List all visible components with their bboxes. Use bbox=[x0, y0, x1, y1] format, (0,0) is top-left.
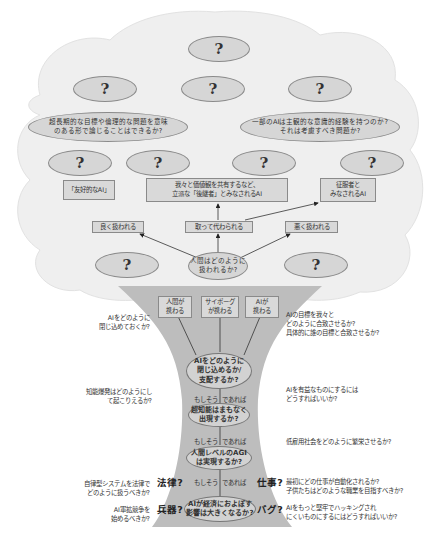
box-text-line: サイボーグ bbox=[205, 298, 235, 307]
ellipse-text-line: 超知能はまもなく bbox=[191, 406, 247, 416]
question-mark: ? bbox=[260, 154, 269, 172]
label-line: にくいものにするにはどうすればいいか? bbox=[286, 513, 397, 522]
condition-label-left: もしそう bbox=[188, 436, 218, 446]
box-text-line: 携わる bbox=[253, 307, 271, 316]
label-line: どうすればいいか? bbox=[286, 395, 337, 404]
left-question-autonomous-law: 自律型システムを法律で どのように扱うべきか? bbox=[40, 478, 150, 498]
label-line: AIをどのように bbox=[108, 314, 150, 323]
question-ellipse-long-term-ethics: 超長期的な目標や倫理的な問題を意味 のある形で論じることはできるか? bbox=[28, 112, 188, 142]
ellipse-text-line: 超長期的な目標や倫理的な問題を意味 bbox=[49, 118, 168, 127]
question-ellipse-row6-left: ? bbox=[95, 252, 159, 278]
ellipse-text-line: 人間はどのように bbox=[190, 257, 246, 266]
left-question-intelligence-explosion: 知能爆発はどのようにし て起こりえるか? bbox=[40, 386, 152, 406]
ellipse-text-line: AIをどのように bbox=[194, 357, 244, 367]
question-mark: ? bbox=[368, 154, 377, 172]
question-ellipse-row2-mid: ? bbox=[181, 76, 245, 102]
box-text-line: 人間が bbox=[166, 298, 184, 307]
box-text: 悪く扱われる bbox=[294, 223, 330, 232]
question-ellipse-row4-3: ? bbox=[232, 150, 296, 176]
box-text: 「友好的なAI」 bbox=[68, 186, 110, 195]
question-ellipse-consciousness: 一部のAIは主観的な意識的経験を持つのか? それは考慮すべき問題か? bbox=[240, 112, 400, 142]
question-ellipse-ai-control: AIをどのように 閉じ込めるか/ 支配するか? bbox=[186, 353, 252, 389]
left-question-arms-race: AI軍拡競争を 始めるべきか? bbox=[40, 504, 150, 524]
label-line: 最初にどの仕事が自動化されるか? bbox=[286, 478, 379, 487]
box-text-line: が携わる bbox=[208, 307, 232, 316]
question-ellipse-row6-right: ? bbox=[284, 252, 348, 278]
label-line: AIの目標を我々と bbox=[286, 311, 334, 320]
question-mark: ? bbox=[312, 256, 321, 274]
question-ellipse-economic-impact: AIが経済におよぼす 影響は大きくなるか? bbox=[184, 496, 256, 522]
right-question-automation-jobs: 最初にどの仕事が自動化されるか? 子供たちはどのような職業を目指すべきか? bbox=[286, 478, 436, 498]
ellipse-text-line: は実現するか? bbox=[196, 458, 242, 468]
ellipse-text-line: 出現するか? bbox=[199, 415, 238, 425]
keyword-jobs: 仕事? bbox=[256, 476, 284, 488]
actor-box-cyborg: サイボーグ が携わる bbox=[201, 296, 239, 318]
ellipse-text-line: 人間レベルのAGI bbox=[191, 449, 247, 459]
right-question-low-employment: 低雇用社会をどのように繁栄させるか? bbox=[286, 436, 436, 448]
ellipse-text-line: のある形で論じることはできるか? bbox=[54, 127, 163, 136]
condition-label-right: であれば bbox=[222, 436, 252, 446]
outcome-box-friendly-ai: 「友好的なAI」 bbox=[63, 180, 115, 200]
condition-label-left: もしそう bbox=[188, 477, 218, 487]
box-text: 良く扱われる bbox=[100, 223, 136, 232]
ellipse-text-line: 閉じ込めるか/ bbox=[197, 366, 242, 376]
right-question-goal-alignment: AIの目標を我々と どのように合致させるか? 具体的に誰の目標と合致させるか? bbox=[286, 311, 436, 341]
right-question-beneficial-ai: AIを有益なものにするには どうすればいいか? bbox=[286, 386, 436, 406]
condition-label-right: であれば bbox=[222, 477, 252, 487]
box-text-line: 我々と価値観を共有するなど、 bbox=[175, 181, 259, 190]
question-mark: ? bbox=[76, 154, 85, 172]
ellipse-text-line: それは考慮すべき問題か? bbox=[280, 127, 361, 136]
question-ellipse-row2-right: ? bbox=[288, 76, 352, 102]
question-mark: ? bbox=[316, 80, 325, 98]
label-line: 子供たちはどのような職業を目指すべきか? bbox=[286, 487, 403, 496]
outcome-box-successor-ai: 我々と価値観を共有するなど、 立派な「後継者」とみなされるAI bbox=[146, 178, 288, 202]
ellipse-text-line: 一部のAIは主観的な意識的経験を持つのか? bbox=[252, 118, 388, 127]
treatment-box-treated-badly: 悪く扱われる bbox=[285, 221, 338, 233]
ellipse-text-line: AIが経済におよぼす bbox=[188, 500, 252, 510]
question-mark: ? bbox=[209, 80, 218, 98]
label-line: AI軍拡競争を bbox=[114, 506, 150, 515]
keyword-weapons: 兵器? bbox=[156, 503, 184, 515]
question-ellipse-row4-2: ? bbox=[126, 150, 190, 176]
question-ellipse-agi: 人間レベルのAGI は実現するか? bbox=[186, 446, 252, 470]
question-mark: ? bbox=[154, 154, 163, 172]
question-ellipse-how-humans-treated: 人間はどのように 扱われるか? bbox=[188, 252, 248, 280]
actor-box-ai: AIが 携わる bbox=[245, 296, 279, 318]
box-text-line: 携わる bbox=[166, 307, 184, 316]
keyword-law: 法律? bbox=[156, 476, 184, 488]
box-text-line: AIが bbox=[256, 298, 268, 307]
box-text: 取って代わられる bbox=[195, 223, 243, 232]
treatment-box-replaced: 取って代わられる bbox=[185, 221, 253, 233]
label-line: AIをもっと堅牢でハッキングされ bbox=[286, 504, 376, 513]
box-text-line: みなされるAI bbox=[330, 190, 366, 199]
label-line: 低雇用社会をどのように繁栄させるか? bbox=[286, 438, 391, 447]
question-mark: ? bbox=[215, 40, 224, 58]
box-text-line: 征服者と bbox=[336, 181, 360, 190]
question-ellipse-row4-1: ? bbox=[48, 150, 112, 176]
treatment-box-treated-well: 良く扱われる bbox=[92, 221, 144, 233]
label-line: 知能爆発はどのようにし bbox=[86, 388, 152, 397]
actor-box-human: 人間が 携わる bbox=[158, 296, 192, 318]
label-line: AIを有益なものにするには bbox=[286, 386, 358, 395]
ellipse-text-line: 影響は大きくなるか? bbox=[186, 509, 253, 519]
label-line: 具体的に誰の目標と合致させるか? bbox=[286, 329, 379, 338]
label-line: どのように合致させるか? bbox=[286, 320, 355, 329]
question-mark: ? bbox=[123, 256, 132, 274]
outcome-box-conqueror-ai: 征服者と みなされるAI bbox=[320, 178, 376, 202]
question-ellipse-row4-4: ? bbox=[340, 150, 404, 176]
label-line: どのように扱うべきか? bbox=[87, 489, 150, 498]
label-line: て起こりえるか? bbox=[107, 397, 152, 406]
question-ellipse-row2-left: ? bbox=[73, 76, 137, 102]
question-mark: ? bbox=[101, 80, 110, 98]
label-line: 自律型システムを法律で bbox=[84, 480, 150, 489]
keyword-bugs: バグ? bbox=[256, 503, 284, 515]
box-text-line: 立派な「後継者」とみなされるAI bbox=[172, 190, 262, 199]
label-line: 閉じ込めておくか? bbox=[99, 323, 150, 332]
question-ellipse-top: ? bbox=[188, 36, 250, 62]
left-question-ai-confinement: AIをどのように 閉じ込めておくか? bbox=[40, 312, 150, 332]
ellipse-text-line: 支配するか? bbox=[199, 376, 238, 386]
question-ellipse-superintelligence: 超知能はまもなく 出現するか? bbox=[188, 403, 250, 427]
ellipse-text-line: 扱われるか? bbox=[199, 266, 238, 275]
label-line: 始めるべきか? bbox=[111, 515, 150, 524]
right-question-robustness: AIをもっと堅牢でハッキングされ にくいものにするにはどうすればいいか? bbox=[286, 504, 436, 524]
